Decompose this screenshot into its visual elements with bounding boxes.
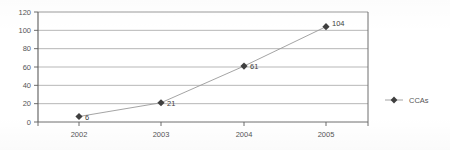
data-point-label: 104 [332,19,345,28]
x-tick-label: 2002 [71,130,88,139]
y-tick-label: 100 [18,26,31,35]
chart-legend: CCAs [385,96,429,105]
x-tick-label: 2003 [153,130,170,139]
y-tick-label: 0 [27,118,31,127]
y-tick-label: 80 [23,44,31,53]
y-tick-label: 40 [23,81,31,90]
data-point-label: 61 [250,62,258,71]
legend-marker-icon [391,97,398,104]
chart-canvas: 120 100 80 60 40 20 0 2002 2003 2004 200… [0,0,450,150]
y-tick-label: 20 [23,99,31,108]
line-chart: 120 100 80 60 40 20 0 2002 2003 2004 200… [0,0,450,150]
data-point-label: 21 [167,99,175,108]
x-tick-label: 2005 [318,130,335,139]
y-tick-label: 120 [18,8,31,17]
y-tick-label: 60 [23,63,31,72]
data-point-label: 6 [85,113,89,122]
y-axis-ticks [34,12,38,122]
x-axis-labels: 2002 2003 2004 2005 [71,130,335,139]
x-tick-label: 2004 [236,130,253,139]
y-axis-labels: 120 100 80 60 40 20 0 [18,8,31,127]
x-axis-ticks [38,122,368,126]
legend-label: CCAs [409,96,429,105]
